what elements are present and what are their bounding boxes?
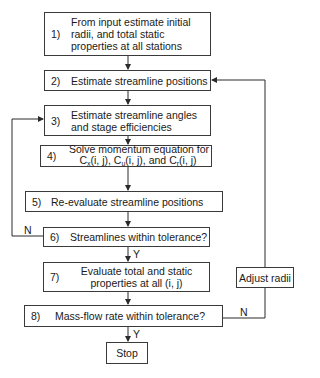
adjust-radii-box: Adjust radii bbox=[236, 267, 294, 288]
step-5-box: 5) Re-evaluate streamline positions bbox=[25, 191, 223, 212]
stop-label: Stop bbox=[107, 347, 147, 359]
step-text: properties at all stations bbox=[71, 40, 191, 52]
step-number: 4) bbox=[47, 150, 56, 162]
step-7-box: 7) Evaluate total and static properties … bbox=[43, 262, 210, 292]
step-text: Estimate streamline positions bbox=[71, 75, 208, 87]
stop-box: Stop bbox=[106, 342, 148, 364]
step-text: Mass-flow rate within tolerance? bbox=[55, 310, 205, 322]
step-6-box: 6) Streamlines within tolerance? bbox=[43, 227, 210, 247]
step-text: Estimate streamline angles bbox=[71, 109, 197, 121]
branch-yes-label: Y bbox=[133, 248, 140, 260]
step-text: Re-evaluate streamline positions bbox=[51, 196, 203, 208]
step-number: 1) bbox=[51, 28, 60, 40]
step-text: From input estimate initial bbox=[71, 16, 191, 28]
step-text: Evaluate total and static bbox=[70, 265, 203, 277]
step-number: 5) bbox=[32, 196, 41, 208]
step-text: properties at all (i, j) bbox=[70, 277, 203, 289]
step-text: radii, and total static bbox=[71, 28, 191, 40]
branch-yes-label: Y bbox=[133, 328, 140, 340]
branch-no-label: N bbox=[24, 224, 32, 236]
step-text: Streamlines within tolerance? bbox=[70, 231, 207, 243]
step-2-box: 2) Estimate streamline positions bbox=[44, 70, 211, 91]
step-4-box: 4) Solve momentum equation for Cx(i, j),… bbox=[40, 145, 212, 167]
step-3-box: 3) Estimate streamline angles and stage … bbox=[44, 105, 211, 136]
adjust-radii-label: Adjust radii bbox=[237, 272, 293, 284]
step-equation: Cx(i, j), Cu(i, j), and Cr(i, j) bbox=[69, 154, 207, 169]
step-number: 8) bbox=[31, 310, 40, 322]
step-number: 6) bbox=[50, 231, 59, 243]
branch-no-label: N bbox=[240, 306, 248, 318]
step-8-box: 8) Mass-flow rate within tolerance? bbox=[24, 305, 223, 327]
step-number: 2) bbox=[51, 75, 60, 87]
step-number: 3) bbox=[51, 115, 60, 127]
step-1-box: 1) From input estimate initial radii, an… bbox=[44, 12, 211, 56]
step-number: 7) bbox=[50, 271, 59, 283]
step-text: and stage efficiencies bbox=[71, 121, 197, 133]
